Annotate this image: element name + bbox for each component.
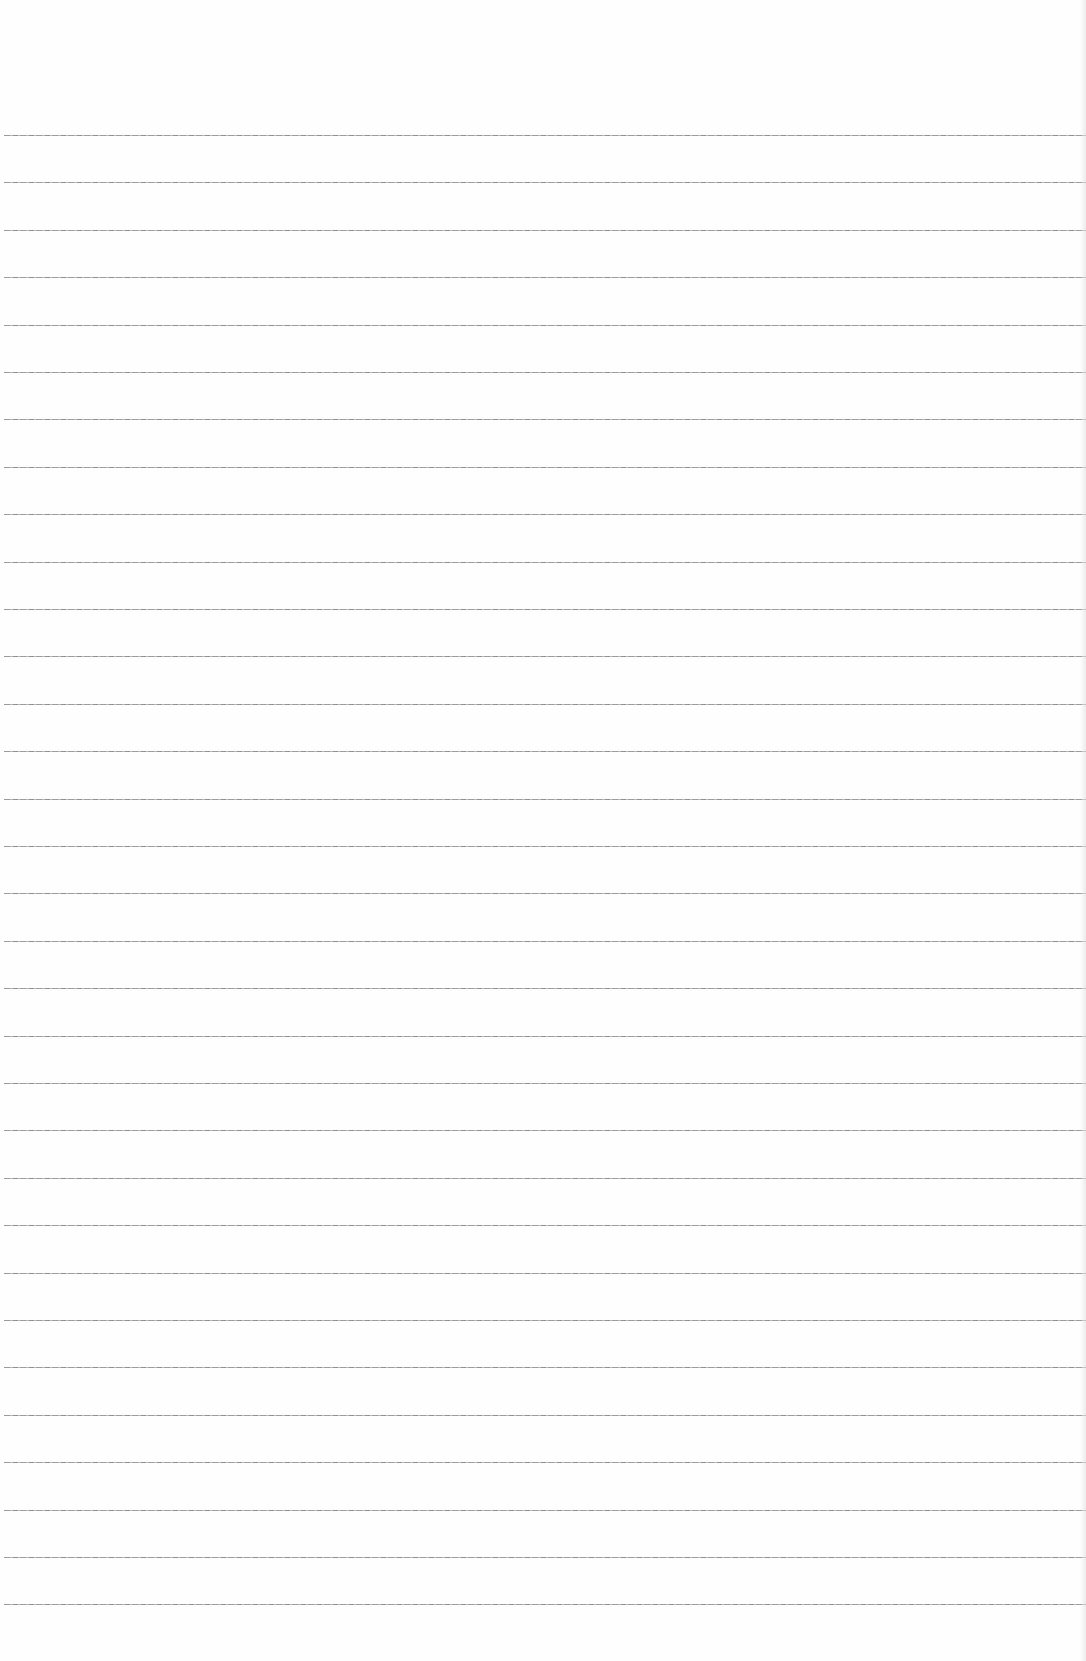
ruled-line <box>4 1178 1086 1179</box>
ruled-line <box>4 609 1086 610</box>
ruled-line <box>4 1130 1086 1131</box>
ruled-line <box>4 1083 1086 1084</box>
ruled-line <box>4 230 1086 231</box>
ruled-line <box>4 1604 1086 1605</box>
ruled-line <box>4 419 1086 420</box>
ruled-line <box>4 277 1086 278</box>
ruled-line <box>4 1036 1086 1037</box>
ruled-line <box>4 1510 1086 1511</box>
ruled-line <box>4 988 1086 989</box>
ruled-line <box>4 941 1086 942</box>
ruled-line <box>4 656 1086 657</box>
ruled-line <box>4 846 1086 847</box>
ruled-line <box>4 799 1086 800</box>
paper-edge-shadow <box>1080 0 1086 1661</box>
ruled-line <box>4 562 1086 563</box>
ruled-line <box>4 1415 1086 1416</box>
ruled-line <box>4 1273 1086 1274</box>
ruled-line <box>4 704 1086 705</box>
ruled-line <box>4 1557 1086 1558</box>
ruled-line <box>4 514 1086 515</box>
ruled-line <box>4 1367 1086 1368</box>
ruled-line <box>4 467 1086 468</box>
ruled-line <box>4 1462 1086 1463</box>
ruled-line <box>4 135 1086 136</box>
ruled-line <box>4 182 1086 183</box>
ruled-line <box>4 893 1086 894</box>
ruled-line <box>4 1320 1086 1321</box>
ruled-line <box>4 372 1086 373</box>
ruled-line <box>4 751 1086 752</box>
lined-paper-sheet <box>0 0 1086 1661</box>
ruled-line <box>4 1225 1086 1226</box>
ruled-line <box>4 325 1086 326</box>
